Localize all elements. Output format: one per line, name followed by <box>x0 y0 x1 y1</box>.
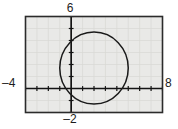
graph-figure: 6 –4 8 –2 <box>0 0 178 129</box>
plot-area <box>0 0 178 129</box>
